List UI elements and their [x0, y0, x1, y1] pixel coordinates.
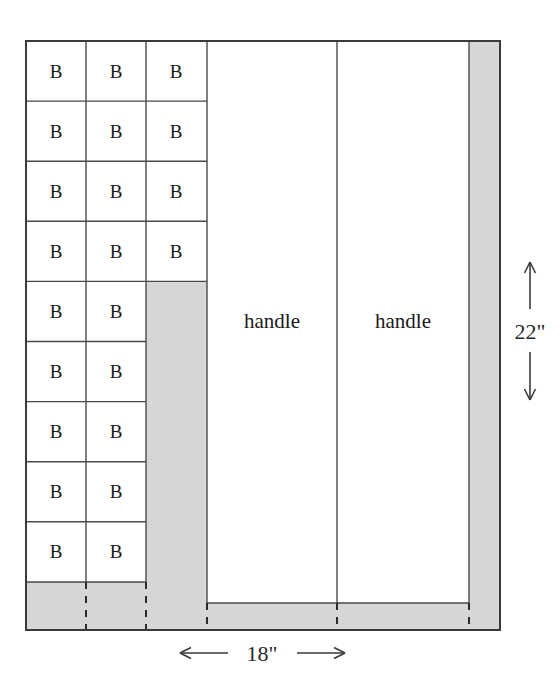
piece-label: B: [50, 241, 63, 262]
piece-label: B: [110, 541, 123, 562]
piece-label: B: [50, 361, 63, 382]
height-dimension-label: 22": [515, 319, 546, 344]
cutting-layout-diagram: B B B B B B B B B B B B B B B B B B B B …: [0, 0, 560, 677]
piece-label: B: [170, 61, 183, 82]
piece-label: B: [50, 421, 63, 442]
piece-label: B: [110, 301, 123, 322]
piece-label: B: [170, 241, 183, 262]
piece-label: B: [50, 301, 63, 322]
piece-label: B: [110, 361, 123, 382]
piece-label: B: [50, 181, 63, 202]
piece-label: B: [110, 121, 123, 142]
layout-svg: B B B B B B B B B B B B B B B B B B B B …: [0, 0, 560, 677]
handle-right-label: handle: [375, 309, 431, 333]
piece-label: B: [110, 421, 123, 442]
piece-label: B: [170, 181, 183, 202]
piece-label: B: [110, 241, 123, 262]
width-dimension-label: 18": [247, 641, 278, 666]
piece-label: B: [50, 481, 63, 502]
piece-label: B: [50, 61, 63, 82]
piece-label: B: [50, 541, 63, 562]
piece-label: B: [170, 121, 183, 142]
piece-label: B: [110, 481, 123, 502]
piece-label: B: [50, 121, 63, 142]
piece-label: B: [110, 181, 123, 202]
piece-label: B: [110, 61, 123, 82]
handle-left-label: handle: [244, 309, 300, 333]
